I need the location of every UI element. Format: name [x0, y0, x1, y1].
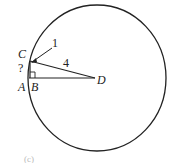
- label-A: A: [17, 80, 26, 94]
- label-4: 4: [63, 56, 69, 70]
- label-C: C: [18, 47, 27, 61]
- label-D: D: [96, 73, 106, 87]
- label-unknown: ?: [18, 61, 23, 75]
- right-angle-marker: [30, 72, 35, 78]
- geometry-diagram: C ? A B D 1 4 (c): [0, 0, 183, 163]
- label-1: 1: [52, 36, 58, 50]
- footer-text: (c): [24, 154, 34, 163]
- label-B: B: [31, 80, 39, 94]
